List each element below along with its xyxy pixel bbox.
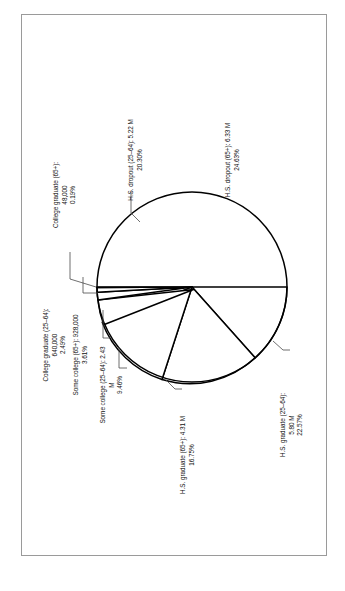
label-hs-dropout-65plus-l2: 24.63% xyxy=(233,149,240,171)
label-hs-graduate-25-64: H.S. graduate (25–64): 5.80 M 22.57% xyxy=(279,393,303,457)
label-some-college-25-64-l3: 9.46% xyxy=(116,376,123,394)
label-hs-graduate-65plus-l1: H.S. graduate (65+): 4.31 M xyxy=(179,416,187,494)
label-hs-dropout-25-64-group: H.S. dropout (25–64): 5.22 M 20.30% xyxy=(127,119,143,200)
label-college-graduate-65plus-l1: College graduate (65+): xyxy=(52,162,60,228)
label-some-college-25-64-l1: Some college (25–64): 2.43 xyxy=(99,346,107,424)
label-college-graduate-25-64-l3: 2.49% xyxy=(59,336,66,354)
label-college-graduate-25-64-l2: 640,000 xyxy=(51,333,58,356)
label-college-graduate-25-64: College graduate (25–64): 640,000 2.49% xyxy=(42,308,66,381)
leader-line-hs-graduate-25-64 xyxy=(273,341,290,350)
pie-slice-college-graduate-65plus[interactable] xyxy=(97,287,192,288)
label-hs-graduate-25-64-l2: 5.80 M xyxy=(288,415,295,434)
label-some-college-65plus-l1: Some college (65+): 928,000 xyxy=(72,314,80,395)
page-canvas: H.S. dropout (25–64): 5.22 M 20.30% H.S.… xyxy=(0,0,345,591)
label-hs-graduate-65plus-l2: 16.75% xyxy=(188,444,195,466)
label-hs-dropout-25-64-l2: 20.30% xyxy=(136,149,143,171)
label-hs-graduate-65plus: H.S. graduate (65+): 4.31 M 16.75% xyxy=(179,416,195,494)
label-some-college-25-64: Some college (25–64): 2.43 M 9.46% xyxy=(99,346,123,424)
label-some-college-65plus-l2: 3.61% xyxy=(81,346,88,364)
pie-slices[interactable] xyxy=(97,192,287,384)
label-hs-dropout-65plus: H.S. dropout (65+): 6.33 M 24.63% xyxy=(224,123,240,198)
label-hs-graduate-25-64-l1: H.S. graduate (25–64): xyxy=(279,393,287,457)
label-some-college-25-64-l2: M xyxy=(108,382,115,387)
label-hs-dropout-65plus-l1: H.S. dropout (65+): 6.33 M xyxy=(224,123,232,198)
label-some-college-65plus: Some college (65+): 928,000 3.61% xyxy=(72,314,88,395)
label-hs-dropout-25-64-l1: H.S. dropout (25–64): 5.22 M xyxy=(127,119,135,200)
label-college-graduate-65plus-l2: 48,000 xyxy=(61,185,68,205)
label-college-graduate-25-64-l1: College graduate (25–64): xyxy=(42,308,50,381)
label-college-graduate-65plus: College graduate (65+): 48,000 0.19% xyxy=(52,162,76,228)
label-hs-graduate-25-64-l3: 22.57% xyxy=(296,414,303,436)
label-college-graduate-65plus-l3: 0.19% xyxy=(69,186,76,204)
pie-chart[interactable]: H.S. dropout (25–64): 5.22 M 20.30% H.S.… xyxy=(0,0,345,591)
